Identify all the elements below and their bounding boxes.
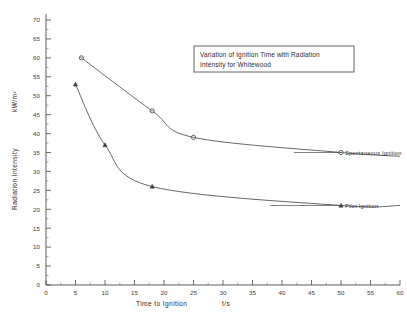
y-tick-label: 65 xyxy=(33,35,40,42)
x-tick-label: 10 xyxy=(102,289,109,296)
x-tick-label: 5 xyxy=(74,289,78,296)
chart-title-box: Variation of Ignition Time with Radiatio… xyxy=(194,46,354,72)
data-point-pilot xyxy=(73,82,77,86)
x-tick-label: 30 xyxy=(220,289,227,296)
title-line-1: Variation of Ignition Time with Radiatio… xyxy=(200,51,320,59)
y-tick-label: 15 xyxy=(33,225,40,232)
x-tick-label: 60 xyxy=(397,289,404,296)
y-tick-label: 45 xyxy=(33,111,40,118)
x-tick-label: 15 xyxy=(131,289,138,296)
x-tick-label: 20 xyxy=(161,289,168,296)
y-tick-label: 60 xyxy=(33,54,40,61)
pilot-ignition-label: Pilot Ignition xyxy=(345,203,378,209)
y-axis-ticks xyxy=(46,20,51,285)
x-axis-title: Time to Ignition xyxy=(136,300,187,308)
y-tick-label: 10 xyxy=(33,243,40,250)
y-tick-label: 55 xyxy=(33,73,40,80)
x-tick-label: 25 xyxy=(190,289,197,296)
chart-canvas: 051015202530354045505560 051015202530354… xyxy=(0,0,407,317)
y-tick-label: 0 xyxy=(37,281,41,288)
y-axis-unit: kW/m² xyxy=(11,91,18,112)
y-tick-label: 5 xyxy=(37,262,41,269)
x-tick-label: 40 xyxy=(279,289,286,296)
x-tick-label: 45 xyxy=(308,289,315,296)
y-tick-label: 20 xyxy=(33,206,40,213)
title-line-2: Intensity for Whitewood xyxy=(200,61,271,69)
y-tick-label: 50 xyxy=(33,92,40,99)
x-tick-label: 35 xyxy=(249,289,256,296)
x-tick-label: 0 xyxy=(44,289,48,296)
x-axis-tick-labels: 051015202530354045505560 xyxy=(44,289,404,296)
spontaneous-ignition-label: Spontaneous Ignition xyxy=(345,150,402,156)
markers-pilot-ignition xyxy=(73,82,343,207)
curve-pilot-ignition xyxy=(76,84,401,207)
y-tick-label: 40 xyxy=(33,130,40,137)
y-tick-label: 25 xyxy=(33,187,40,194)
y-axis-title: Radiation Intensity xyxy=(11,148,19,210)
x-axis-unit: t/s xyxy=(222,300,230,307)
y-tick-label: 35 xyxy=(33,149,40,156)
title-box-border xyxy=(194,46,354,72)
y-tick-label: 70 xyxy=(33,16,40,23)
y-axis-tick-labels: 0510152025303540455055606570 xyxy=(33,16,40,288)
x-tick-label: 55 xyxy=(367,289,374,296)
curve-spontaneous-ignition xyxy=(81,58,400,156)
y-tick-label: 30 xyxy=(33,168,40,175)
ignition-time-chart: 051015202530354045505560 051015202530354… xyxy=(0,0,407,317)
x-tick-label: 50 xyxy=(338,289,345,296)
x-axis-ticks xyxy=(46,280,400,285)
